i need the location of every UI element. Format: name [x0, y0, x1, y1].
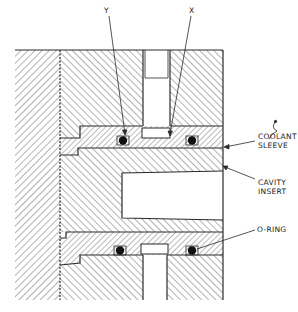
label-coolant-sleeve-2: SLEEVE	[258, 141, 288, 150]
cross-section-drawing	[0, 0, 298, 312]
label-o-ring: O-RING	[257, 225, 286, 234]
label-coolant-sleeve-1: COOLANT	[258, 132, 297, 141]
mold-body-upper	[60, 50, 223, 138]
label-x: X	[189, 6, 194, 15]
label-cavity-insert-1: CAVITY	[258, 178, 286, 187]
mold-body-lower	[60, 255, 223, 300]
label-y: Y	[104, 6, 109, 15]
label-cavity-insert-2: INSERT	[258, 187, 286, 196]
left-plate	[15, 50, 60, 300]
